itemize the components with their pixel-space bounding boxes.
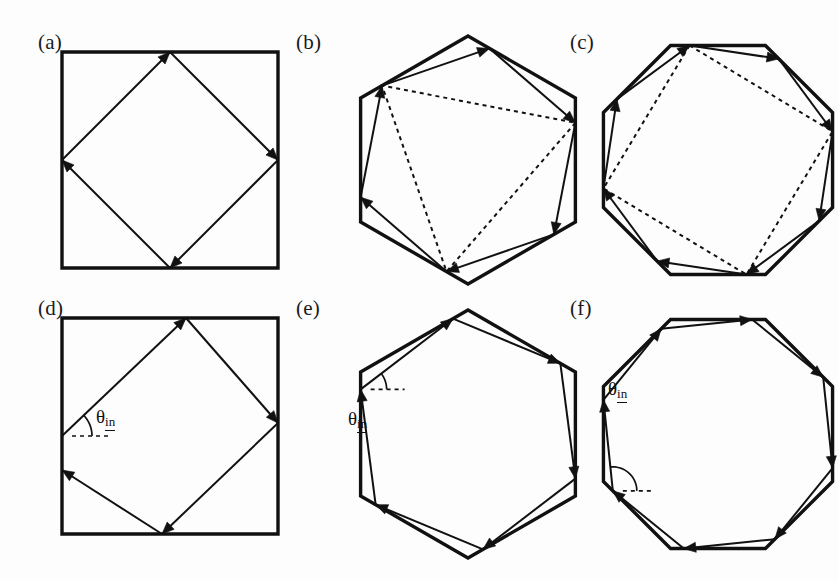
hexagon-orbit-segment (361, 86, 382, 198)
theta-subscript-d: in (105, 414, 115, 431)
panel-f-geometry (558, 266, 838, 581)
dashed-triangle (382, 86, 575, 272)
diamond-orbit-segment (62, 160, 170, 268)
hexagon-boundary (361, 310, 576, 558)
panel-d-geometry (0, 266, 280, 581)
theta-subscript-e: in (357, 416, 367, 433)
square-boundary (62, 318, 278, 534)
diamond-orbit-segment (170, 52, 278, 160)
octagon-orbit-segment (617, 45, 690, 99)
square-boundary (62, 52, 278, 268)
theta-e-angle-arc (381, 374, 386, 390)
diamond-orbit-segment (170, 160, 278, 268)
hexagon-orbit-arrowhead (483, 538, 496, 549)
panel-b: (b) (280, 0, 560, 290)
hexagon-orbit-arrowhead (440, 319, 453, 330)
panel-d: (d) θin (0, 266, 280, 581)
theta-in-label-d: θin (96, 406, 115, 430)
theta-in-label-f: θin (608, 378, 627, 402)
octagon-orbit-segment (603, 188, 657, 261)
octagon-boundary (603, 319, 832, 548)
panel-e: (e) θin (280, 266, 560, 581)
theta-symbol-d: θ (96, 406, 105, 427)
tilted-diamond-orbit-segment (162, 423, 278, 534)
tilted-diamond-orbit-segment (186, 318, 278, 423)
panel-a: (a) (0, 0, 280, 290)
hexagon-orbit-arrowhead (476, 48, 489, 58)
diamond-orbit-segment (62, 52, 170, 160)
octagon-orbit-arrowhead (826, 456, 836, 468)
panel-f: (f) θin (558, 266, 838, 581)
octagon-orbit-arrowhead (740, 316, 752, 326)
theta-in-label-e: θin (348, 408, 367, 432)
octagon-orbit-segment (779, 59, 833, 132)
hexagon-orbit-segment (361, 319, 453, 390)
figure-canvas: (a) (b) (c) (d) θin (e) θin (f) θin (0, 0, 838, 581)
octagon-orbit-arrowhead (684, 542, 696, 552)
theta-symbol-e: θ (348, 408, 357, 429)
hexagon-orbit-segment (361, 197, 447, 271)
octagon-orbit-segment (752, 319, 823, 377)
octagon-orbit-segment (775, 468, 833, 539)
octagon-boundary (603, 45, 832, 274)
hexagon-orbit-segment (376, 505, 483, 550)
panel-c-geometry (558, 0, 838, 290)
tilted-diamond-orbit-segment (62, 318, 186, 436)
theta-symbol-f: θ (608, 378, 617, 399)
tilted-diamond-orbit-arrowhead (62, 470, 75, 481)
hexagon-orbit-segment (453, 319, 560, 364)
panel-a-geometry (0, 0, 280, 290)
panel-c: (c) (558, 0, 838, 290)
theta-d-angle-arc (84, 415, 92, 436)
panel-b-geometry (280, 0, 560, 290)
tilted-diamond-orbit-segment (62, 470, 162, 534)
theta-f-angle-arc (610, 467, 636, 491)
panel-e-geometry (280, 266, 560, 581)
theta-subscript-f: in (617, 386, 627, 403)
hexagon-orbit-segment (361, 389, 376, 504)
octagon-orbit-segment (613, 491, 684, 549)
